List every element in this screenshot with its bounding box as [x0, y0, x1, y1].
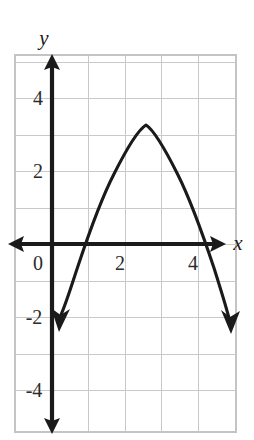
- y-axis-label: y: [37, 26, 49, 50]
- x-axis-label: x: [232, 231, 243, 255]
- x-tick-label-4: 4: [188, 252, 198, 274]
- y-tick-label-minus-2: -2: [26, 306, 43, 328]
- y-tick-label-2: 2: [33, 160, 43, 182]
- figure-background: [0, 0, 254, 440]
- x-tick-label-2: 2: [115, 252, 125, 274]
- coordinate-plane: y x 0 2 4 4 2 -2 -4: [0, 0, 254, 440]
- y-tick-label-minus-4: -4: [26, 379, 43, 401]
- y-tick-label-4: 4: [33, 87, 43, 109]
- origin-label: 0: [33, 252, 43, 274]
- graph-figure: y x 0 2 4 4 2 -2 -4: [0, 0, 254, 440]
